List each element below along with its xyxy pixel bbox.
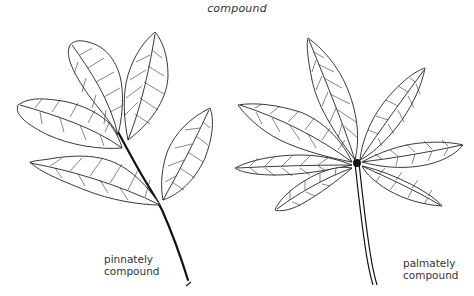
leaf-illustrations [0,0,474,296]
pinnate-compound-leaf-drawing [17,32,212,286]
pinnate-label-line1: pinnately [104,253,160,265]
pinnate-label-line2: compound [104,265,160,277]
palmate-label-line2: compound [403,269,459,281]
pinnately-compound-label: pinnately compound [104,253,160,277]
palmate-compound-leaf-drawing [235,38,463,285]
palmate-label-line1: palmately [403,257,459,269]
palmately-compound-label: palmately compound [403,257,459,281]
